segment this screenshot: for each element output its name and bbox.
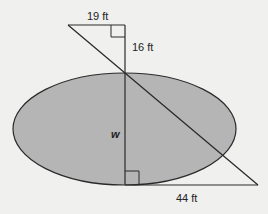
right-angle-marker-top: [111, 25, 125, 37]
label-top-leg: 19 ft: [87, 11, 108, 22]
similar-triangles-figure: [0, 0, 268, 214]
label-upper-vertical: 16 ft: [132, 42, 153, 53]
label-bottom-leg: 44 ft: [176, 193, 197, 204]
diagram-canvas: 19 ft 16 ft w 44 ft: [0, 0, 268, 214]
label-width-variable: w: [111, 129, 120, 140]
